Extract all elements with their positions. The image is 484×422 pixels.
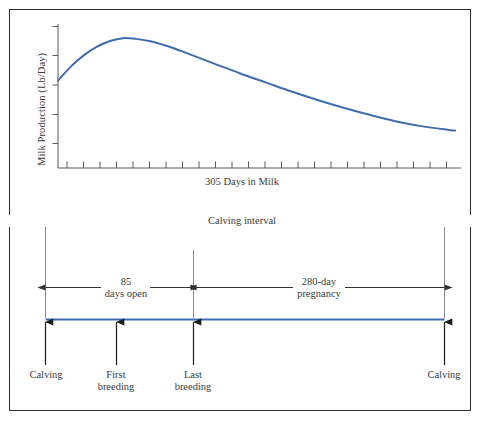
event-label-last-breeding-line1: Last [143,369,243,381]
event-label-last-breeding-line2: breeding [143,381,243,393]
y-axis-title: Milk Production (Lb/Day) [36,53,48,166]
chart-axes [53,24,462,168]
span-label-pregnancy-line2: pregnancy [269,288,369,300]
span-label-days-open: 85 days open [76,276,176,300]
x-ticks [67,162,447,169]
figure-graphics [0,0,484,422]
span-label-days-open-line2: days open [76,288,176,300]
x-axis-title: 305 Days in Milk [0,176,484,188]
span-label-days-open-line1: 85 [76,276,176,288]
span-label-pregnancy-line1: 280-day [269,276,369,288]
span-label-pregnancy: 280-day pregnancy [269,276,369,300]
event-label-calving-end-line1: Calving [394,369,484,381]
event-label-calving-end: Calving [394,369,484,381]
calving-interval-label: Calving interval [0,215,484,227]
lactation-curve [58,38,455,131]
event-label-last-breeding: Last breeding [143,369,243,393]
figure-root: Milk Production (Lb/Day) 305 Days in Mil… [0,0,484,422]
